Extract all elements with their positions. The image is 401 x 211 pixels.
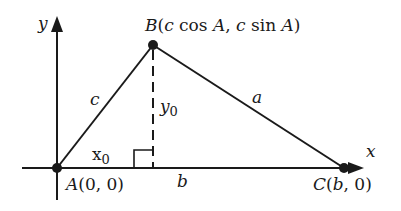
side-c-label: c (90, 89, 100, 109)
vertex-a-dot (52, 163, 62, 173)
x-axis-label: x (366, 141, 376, 161)
side-b-label: b (177, 171, 188, 191)
vertex-b-dot (148, 40, 158, 50)
foot-label: x0 (92, 144, 110, 167)
right-angle-marker (134, 150, 153, 168)
vertex-c-label: C(b, 0) (313, 174, 372, 194)
side-a-label: a (252, 87, 262, 107)
y-axis-label: y (37, 13, 48, 33)
side-a (153, 45, 344, 168)
vertex-c-dot (339, 163, 349, 173)
x-axis-arrow-icon (348, 162, 364, 174)
triangle-diagram: y x B(c cos A, c sin A) A(0, 0) C(b, 0) … (0, 0, 401, 211)
vertex-a-label: A(0, 0) (64, 174, 124, 194)
y-axis-arrow-icon (51, 16, 63, 32)
vertex-b-label: B(c cos A, c sin A) (144, 15, 300, 35)
height-label: y0 (159, 96, 178, 119)
